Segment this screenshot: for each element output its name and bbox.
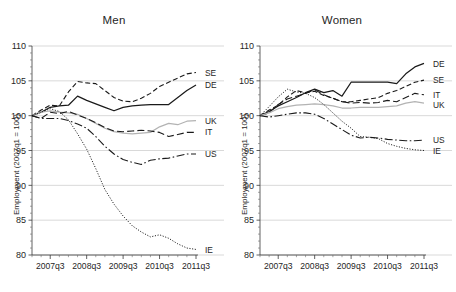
x-tick-label-2007q3: 2007q3 <box>264 261 293 271</box>
y-tick-label-90: 90 <box>16 181 26 191</box>
x-tick-label-2007q3: 2007q3 <box>36 261 65 271</box>
series-label-men-uk: UK <box>205 116 217 126</box>
series-line-men-de <box>32 85 196 116</box>
x-tick-label-2009q3: 2009q3 <box>337 261 366 271</box>
y-tick-label-80: 80 <box>16 250 26 260</box>
y-tick-label-95: 95 <box>244 146 254 156</box>
series-label-men-ie: IE <box>205 245 213 255</box>
series-line-men-us <box>32 116 196 165</box>
series-label-women-us: US <box>433 135 445 145</box>
x-tick-label-2010q3: 2010q3 <box>145 261 174 271</box>
plot-area-women: 808590951001051102007q32008q32009q32010q… <box>228 0 456 292</box>
series-label-women-it: IT <box>433 90 440 100</box>
y-tick-label-110: 110 <box>12 41 26 51</box>
series-line-women-us <box>260 113 424 141</box>
x-tick-label-2010q3: 2010q3 <box>373 261 402 271</box>
series-line-women-ie <box>260 89 424 150</box>
series-line-men-uk <box>32 111 196 134</box>
x-tick-label-2011q3: 2011q3 <box>182 261 210 271</box>
series-label-women-de: DE <box>433 59 445 69</box>
series-label-women-ie: IE <box>433 146 441 156</box>
x-tick-label-2011q3: 2011q3 <box>410 261 438 271</box>
x-tick-label-2008q3: 2008q3 <box>300 261 329 271</box>
series-label-women-uk: UK <box>433 100 445 110</box>
y-tick-label-85: 85 <box>244 215 254 225</box>
y-tick-label-105: 105 <box>239 76 254 86</box>
y-tick-label-100: 100 <box>11 111 26 121</box>
y-tick-label-100: 100 <box>239 111 254 121</box>
series-line-women-se <box>260 80 424 116</box>
y-tick-label-85: 85 <box>16 215 26 225</box>
series-label-men-it: IT <box>205 127 212 137</box>
figure-employment-index: Men Employment (2007q1 = 100) 8085909510… <box>0 0 456 292</box>
y-tick-label-90: 90 <box>244 181 254 191</box>
series-line-men-se <box>32 72 196 115</box>
y-tick-label-105: 105 <box>11 76 26 86</box>
x-tick-label-2009q3: 2009q3 <box>109 261 138 271</box>
y-tick-label-110: 110 <box>240 41 254 51</box>
x-tick-label-2008q3: 2008q3 <box>72 261 101 271</box>
series-label-women-se: SE <box>433 75 445 85</box>
y-tick-label-95: 95 <box>16 146 26 156</box>
series-label-men-us: US <box>205 149 217 159</box>
panel-men: Men Employment (2007q1 = 100) 8085909510… <box>0 0 228 292</box>
y-tick-label-80: 80 <box>244 250 254 260</box>
series-label-men-se: SE <box>205 68 217 78</box>
series-line-men-ie <box>32 109 196 250</box>
series-line-women-uk <box>260 102 424 116</box>
series-label-men-de: DE <box>205 80 217 90</box>
panel-women: Women Employment (2007q1 = 100) 80859095… <box>228 0 456 292</box>
plot-area-men: 808590951001051102007q32008q32009q32010q… <box>0 0 228 292</box>
